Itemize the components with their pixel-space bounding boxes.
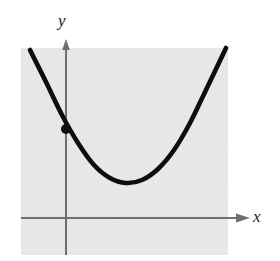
y-axis-arrowhead <box>62 39 70 50</box>
graph-canvas <box>0 0 280 261</box>
plot-panel-grain <box>21 48 228 255</box>
graph-figure: y x <box>0 0 280 261</box>
x-axis-arrowhead <box>236 213 250 222</box>
y-intercept-point <box>61 124 71 134</box>
x-axis-label: x <box>253 208 261 225</box>
y-axis-label: y <box>58 12 66 29</box>
